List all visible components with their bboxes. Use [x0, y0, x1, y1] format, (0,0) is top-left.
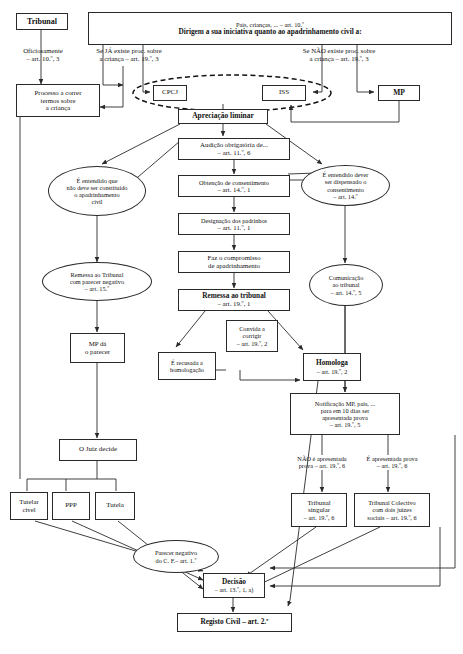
node-entendido-dispensado[interactable]: É entendido dever ser dispensado o conse… — [301, 165, 390, 206]
node-iss[interactable]: ISS — [262, 85, 306, 101]
node-tribunal-top[interactable]: Tribunal — [16, 13, 68, 30]
node-tribunal-colectivo[interactable]: Tribunal Colectivo com dois juízes socia… — [354, 493, 430, 527]
node-obtencao-consentimento[interactable]: Obtenção de consentimento – art. 14.º, 1 — [178, 175, 290, 197]
node-e-apresentada-label: É apresentada prova – art. 19.º, 6 — [346, 452, 438, 472]
edge-remessa-recusada — [176, 311, 205, 347]
node-comunicacao-tribunal[interactable]: Comunicação ao tribunal – art. 14.º, 5 — [309, 264, 383, 306]
edge-mp-iss — [291, 101, 399, 122]
node-remessa-ao-tribunal[interactable]: Remessa ao tribunal – art. 19.º, 1 — [178, 289, 290, 311]
node-juiz-decide[interactable]: O Juiz decide — [59, 439, 137, 461]
node-ppp[interactable]: PPP — [52, 492, 90, 520]
node-mp-top[interactable]: MP — [378, 85, 420, 101]
node-homologa[interactable]: Homologa – art. 19.º, 2 — [303, 353, 361, 381]
node-notificacao-mp[interactable]: Notificação MP, pais, ... para em 10 dia… — [290, 393, 400, 435]
node-entendido-nao-constituido[interactable]: É entendido que não deve ser constituído… — [48, 166, 146, 216]
flowchart-canvas: Tribunal Pais, crianças, ... – art. 10.º… — [0, 0, 463, 654]
node-oficiosamente-label: Oficiosamente – art. 10.º, 3 — [8, 44, 78, 66]
edge-singular-decisao — [246, 527, 316, 576]
edge-right-rail2-decisao — [270, 527, 440, 586]
edge-seja-processo — [100, 66, 123, 107]
node-faz-compromisso[interactable]: Faz o compromisso de apadrinhamento — [178, 251, 290, 273]
node-convida-corrigir[interactable]: Convida a corrigir – art. 19.º, 2 — [226, 320, 278, 352]
node-audicao-obrigatoria[interactable]: Audição obrigatória de... – art. 11.º, 6 — [178, 138, 290, 160]
node-registo-civil[interactable]: Registo Civil – art. 2.º — [177, 613, 292, 632]
node-mp-da-parecer[interactable]: MP dá o parecer — [70, 333, 125, 363]
node-recusada-homologacao[interactable]: É recusada a homologação — [158, 352, 216, 380]
node-parecer-negativo-cf[interactable]: Parecer negativo do C. F.– art. 1.º — [133, 540, 219, 573]
node-designacao-padrinhos[interactable]: Designação dos padrinhos – art. 11.º, 1 — [178, 213, 290, 235]
node-tribunal-singular[interactable]: Tribunal singular – art. 19.º, 6 — [291, 493, 347, 527]
node-remessa-parecer-negativo[interactable]: Remessa ao Tribunal com parecer negativo… — [42, 262, 152, 301]
edge-colectivo-decisao — [252, 527, 380, 588]
edge-convida-homologa — [240, 370, 300, 380]
node-tutelar-civel[interactable]: Tutelar cível — [10, 492, 48, 520]
node-header-banner[interactable]: Pais, crianças, ... – art. 10.º Dirigem … — [88, 12, 452, 45]
node-se-nao-existe-label: Se NÃO existe proc. sobre a criança – ar… — [289, 44, 389, 66]
node-processo-a-correr[interactable]: Processo a correr termos sobre a criança — [16, 84, 100, 117]
node-cpcj[interactable]: CPCJ — [153, 85, 187, 101]
node-apreciacao-liminar[interactable]: Apreciação liminar — [178, 109, 268, 124]
node-tutela[interactable]: Tutela — [95, 492, 135, 520]
node-se-ja-existe-label: Se JÁ existe proc. sobre a criança – art… — [83, 44, 175, 66]
edge-apreciacao-nao-constituido — [102, 124, 180, 164]
node-decisao[interactable]: Decisão – art. 13.º, 1, a) — [203, 573, 265, 598]
